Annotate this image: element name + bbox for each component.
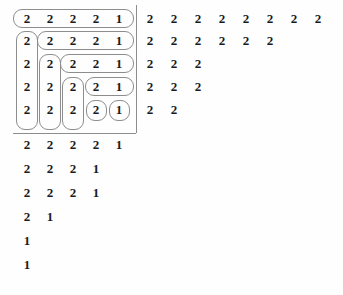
grid-cell-r2-c2: 2 (166, 34, 182, 47)
grid-cell-r5-c1: 2 (142, 103, 158, 116)
grid-cell-r1-c8: 2 (310, 12, 326, 25)
tableau-cell-r7-c4: 1 (88, 162, 104, 175)
grid-cell-r2-c1: 2 (142, 34, 158, 47)
grid-cell-r4-c1: 2 (142, 80, 158, 93)
grid-cell-r2-c6: 2 (262, 34, 278, 47)
grid-cell-r1-c3: 2 (190, 12, 206, 25)
tableau-cell-r9-c1: 2 (19, 210, 35, 223)
tableau-cell-r8-c1: 2 (19, 186, 35, 199)
tableau-cell-r7-c1: 2 (19, 162, 35, 175)
tableau-cell-r8-c3: 2 (65, 186, 81, 199)
grid-cell-r4-c2: 2 (166, 80, 182, 93)
grid-cell-r1-c4: 2 (214, 12, 230, 25)
vertical-rule (136, 5, 137, 133)
grid-cell-r3-c2: 2 (166, 57, 182, 70)
tableau-cell-r1-c5: 1 (111, 12, 127, 25)
tableau-cell-r1-c1: 2 (19, 12, 35, 25)
tableau-cell-r6-c3: 2 (65, 138, 81, 151)
grid-cell-r1-c2: 2 (166, 12, 182, 25)
tableau-cell-r5-c4: 2 (88, 103, 104, 116)
tableau-cell-r2-c3: 2 (65, 34, 81, 47)
grid-cell-r4-c3: 2 (190, 80, 206, 93)
figure-canvas: 2222122221222212222122221222212221222121… (0, 0, 343, 295)
tableau-cell-r5-c5: 1 (111, 103, 127, 116)
tableau-cell-r6-c4: 2 (88, 138, 104, 151)
grid-cell-r1-c7: 2 (286, 12, 302, 25)
tableau-cell-r8-c4: 1 (88, 186, 104, 199)
tableau-cell-r2-c4: 2 (88, 34, 104, 47)
tableau-cell-r2-c5: 1 (111, 34, 127, 47)
grid-cell-r3-c3: 2 (190, 57, 206, 70)
tableau-cell-r1-c3: 2 (65, 12, 81, 25)
tableau-cell-r2-c2: 2 (42, 34, 58, 47)
grid-cell-r1-c5: 2 (238, 12, 254, 25)
tableau-cell-r1-c2: 2 (42, 12, 58, 25)
tableau-cell-r5-c2: 2 (42, 103, 58, 116)
tableau-cell-r1-c4: 2 (88, 12, 104, 25)
tableau-cell-r4-c1: 2 (19, 80, 35, 93)
tableau-cell-r3-c3: 2 (65, 57, 81, 70)
grid-cell-r1-c6: 2 (262, 12, 278, 25)
tableau-cell-r4-c3: 2 (65, 80, 81, 93)
tableau-cell-r6-c1: 2 (19, 138, 35, 151)
tableau-cell-r5-c1: 2 (19, 103, 35, 116)
tableau-cell-r3-c2: 2 (42, 57, 58, 70)
tableau-cell-r10-c1: 1 (19, 234, 35, 247)
grid-cell-r1-c1: 2 (142, 12, 158, 25)
horizontal-rule (13, 133, 136, 134)
tableau-cell-r3-c4: 2 (88, 57, 104, 70)
tableau-cell-r8-c2: 2 (42, 186, 58, 199)
grid-cell-r2-c4: 2 (214, 34, 230, 47)
tableau-cell-r3-c1: 2 (19, 57, 35, 70)
tableau-cell-r9-c2: 1 (42, 210, 58, 223)
grid-cell-r5-c2: 2 (166, 103, 182, 116)
tableau-cell-r11-c1: 1 (19, 258, 35, 271)
tableau-cell-r5-c3: 2 (65, 103, 81, 116)
tableau-cell-r6-c2: 2 (42, 138, 58, 151)
grid-cell-r2-c5: 2 (238, 34, 254, 47)
tableau-cell-r4-c2: 2 (42, 80, 58, 93)
grid-cell-r2-c3: 2 (190, 34, 206, 47)
tableau-cell-r2-c1: 2 (19, 34, 35, 47)
tableau-cell-r4-c5: 1 (111, 80, 127, 93)
tableau-cell-r3-c5: 1 (111, 57, 127, 70)
tableau-cell-r7-c3: 2 (65, 162, 81, 175)
tableau-cell-r4-c4: 2 (88, 80, 104, 93)
tableau-cell-r6-c5: 1 (111, 138, 127, 151)
tableau-cell-r7-c2: 2 (42, 162, 58, 175)
grid-cell-r3-c1: 2 (142, 57, 158, 70)
